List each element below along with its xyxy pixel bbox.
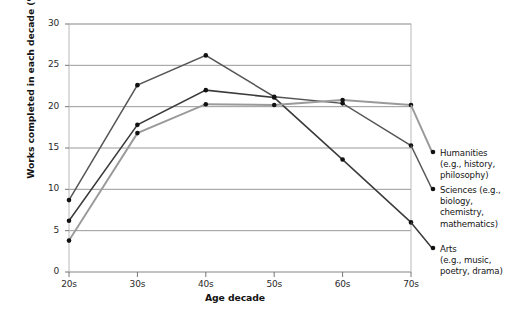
data-point xyxy=(272,103,277,108)
x-tick-label-30s: 30s xyxy=(117,279,157,289)
data-point xyxy=(204,88,209,93)
y-tick-label: 20 xyxy=(33,101,59,111)
y-axis-ticks xyxy=(65,24,69,272)
x-tick-label-50s: 50s xyxy=(254,279,294,289)
legend-marker xyxy=(431,246,436,251)
legend-sublabel: philosophy) xyxy=(440,170,528,181)
legend-sublabel: poetry, drama) xyxy=(440,266,528,277)
legend-marker xyxy=(431,150,436,155)
legend-leader-lines xyxy=(411,105,435,250)
legend-sublabel: (e.g., history, xyxy=(440,159,528,170)
data-point xyxy=(340,157,345,162)
data-point xyxy=(135,123,140,128)
legend-sublabel: (e.g., music, xyxy=(440,255,528,266)
y-tick-label: 25 xyxy=(33,59,59,69)
legend-sublabel: mathematics) xyxy=(440,219,528,230)
figure-container: Works completed in each decade (%) Age d… xyxy=(0,0,529,326)
legend-leader xyxy=(411,222,432,248)
data-point xyxy=(204,53,209,58)
data-point xyxy=(67,218,72,223)
data-point xyxy=(135,131,140,136)
y-tick-label: 5 xyxy=(33,225,59,235)
y-tick-label: 10 xyxy=(33,183,59,193)
x-axis-title: Age decade xyxy=(60,292,410,303)
legend-label: Sciences (e.g., xyxy=(440,185,501,195)
legend-label: Arts xyxy=(440,244,457,254)
data-point xyxy=(67,198,72,203)
x-tick-label-60s: 60s xyxy=(323,279,363,289)
y-tick-label: 0 xyxy=(33,266,59,276)
data-point xyxy=(272,95,277,100)
legend-entry-0: Humanities(e.g., history,philosophy) xyxy=(440,148,528,182)
legend-sublabel: biology, xyxy=(440,196,528,207)
legend-leader xyxy=(411,105,432,152)
x-axis-ticks xyxy=(69,272,411,277)
legend-entry-1: Sciences (e.g.,biology,chemistry,mathema… xyxy=(440,185,528,230)
data-point xyxy=(67,238,72,243)
series-line-0 xyxy=(69,55,411,200)
legend-leader xyxy=(411,146,432,189)
y-tick-label: 30 xyxy=(33,18,59,28)
series-line-1 xyxy=(69,90,411,222)
series-line-2 xyxy=(69,100,411,241)
data-point xyxy=(340,98,345,103)
legend-entry-2: Arts(e.g., music,poetry, drama) xyxy=(440,244,528,278)
legend-marker xyxy=(431,187,436,192)
x-tick-label-20s: 20s xyxy=(49,279,89,289)
x-tick-label-70s: 70s xyxy=(391,279,431,289)
data-point xyxy=(135,83,140,88)
legend-label: Humanities xyxy=(440,148,487,158)
x-tick-label-40s: 40s xyxy=(186,279,226,289)
y-tick-label: 15 xyxy=(33,142,59,152)
legend-sublabel: chemistry, xyxy=(440,207,528,218)
data-point xyxy=(204,102,209,107)
